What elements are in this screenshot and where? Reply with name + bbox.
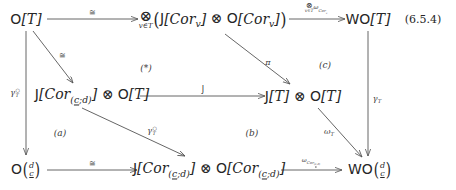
big-tensor-icon: ⊗v∈T	[139, 9, 153, 30]
node-top-left: O[T]	[10, 12, 41, 26]
region-label-c: (c)	[319, 60, 331, 70]
label-diagonal-top-left: ≅	[59, 51, 66, 60]
node-top-right: WO[T]	[345, 12, 390, 26]
node-bottom-right: WO(dc)	[348, 161, 392, 179]
region-label-star: (*)	[140, 63, 152, 73]
region-label-a: (a)	[54, 128, 66, 138]
equation-number: (6.5.4)	[405, 13, 442, 26]
arrow-diagonal-top-right	[225, 34, 290, 84]
label-diagonal-mid-left: γ○T	[147, 126, 157, 136]
arrow-diagonal-top-left	[33, 31, 73, 83]
label-bottom-right-horizontal: ωCor(c;d)	[302, 156, 320, 167]
binomial-stack: dc	[29, 162, 34, 178]
label-mid-horizontal: J	[202, 85, 204, 94]
region-label-b: (b)	[246, 128, 259, 138]
node-mid-left: J[Cor(c;d)] ⊗ O[T]	[35, 87, 149, 104]
right-paren: )	[281, 10, 287, 29]
node-mid-right: J[T] ⊗ O[T]	[265, 89, 341, 103]
label-diagonal-top-right: π	[265, 58, 270, 67]
label-top-horizontal: ≅	[89, 8, 96, 17]
label-left-vertical: γ○T	[10, 88, 20, 98]
left-paren: (	[153, 10, 159, 29]
label-right-vertical: γT	[373, 94, 381, 105]
node-bottom-left: O(dc)	[11, 161, 41, 179]
node-bottom-middle: J[Cor(c;d)] ⊗ O[Cor(c;d)]	[133, 161, 285, 178]
label-bottom-horizontal: ≅	[89, 159, 96, 168]
label-diagonal-mid-right: ωT	[324, 127, 334, 138]
label-top-right-horizontal: ⊗v∈TωCorv	[305, 2, 328, 14]
binomial-stack: dc	[380, 162, 385, 178]
arrow-diagonal-mid-left	[82, 108, 185, 156]
commutative-diagram: O[T] ⊗v∈T(J[Corv] ⊗ O[Corv]) WO[T] J[Cor…	[0, 0, 456, 190]
node-top-middle: ⊗v∈T(J[Corv] ⊗ O[Corv])	[139, 9, 287, 30]
